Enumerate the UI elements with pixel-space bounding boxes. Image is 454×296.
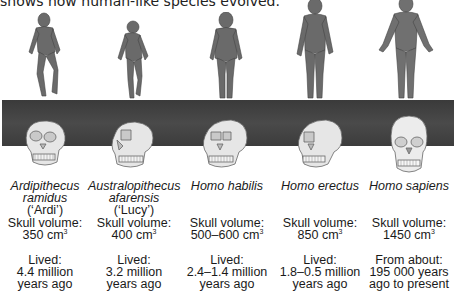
skull-volume-value: 350 cm3 bbox=[0, 229, 90, 241]
homo-erectus-figure-icon bbox=[293, 0, 337, 102]
skull-volume-value: 850 cm3 bbox=[272, 229, 368, 241]
lived-line2: years ago bbox=[180, 278, 274, 290]
ardipithecus-skull-icon bbox=[21, 118, 69, 168]
australopithecus-figure-icon bbox=[112, 20, 152, 102]
homo-sapiens-figure-icon bbox=[375, 0, 437, 102]
australopithecus-skull-icon bbox=[107, 118, 157, 170]
species-info: Homo habilis Skull volume: 500–600 cm3 L… bbox=[180, 180, 274, 291]
lived-line2: years ago bbox=[0, 278, 90, 290]
homo-habilis-figure-icon bbox=[204, 12, 248, 102]
species-nickname: (‘Lucy’) bbox=[88, 204, 180, 216]
species-column-homo-erectus: Homo erectus Skull volume: 850 cm3 Lived… bbox=[272, 0, 368, 296]
species-column-ardipithecus: Ardipithecus ramidus (‘Ardi’) Skull volu… bbox=[0, 0, 90, 296]
species-column-homo-habilis: Homo habilis Skull volume: 500–600 cm3 L… bbox=[180, 0, 274, 296]
lived-line2: ago to present bbox=[364, 278, 454, 290]
skull-volume-value: 500–600 cm3 bbox=[180, 229, 274, 241]
ardipithecus-figure-icon bbox=[24, 12, 70, 102]
skull-volume-value: 1450 cm3 bbox=[364, 229, 454, 241]
species-nickname: (‘Ardi’) bbox=[0, 204, 90, 216]
lived-line2: years ago bbox=[272, 278, 368, 290]
species-column-homo-sapiens: Homo sapiens Skull volume: 1450 cm3 From… bbox=[364, 0, 454, 296]
species-info: Australopithecus afarensis (‘Lucy’) Skul… bbox=[88, 180, 180, 291]
species-nickname bbox=[272, 204, 368, 216]
homo-erectus-skull-icon bbox=[294, 118, 346, 170]
species-nickname bbox=[180, 204, 274, 216]
homo-sapiens-skull-icon bbox=[387, 114, 431, 176]
species-nickname bbox=[364, 204, 454, 216]
species-column-australopithecus: Australopithecus afarensis (‘Lucy’) Skul… bbox=[88, 0, 180, 296]
species-info: Homo erectus Skull volume: 850 cm3 Lived… bbox=[272, 180, 368, 291]
species-info: Homo sapiens Skull volume: 1450 cm3 From… bbox=[364, 180, 454, 291]
skull-volume-value: 400 cm3 bbox=[88, 229, 180, 241]
homo-habilis-skull-icon bbox=[199, 118, 251, 170]
lived-line2: years ago bbox=[88, 278, 180, 290]
species-info: Ardipithecus ramidus (‘Ardi’) Skull volu… bbox=[0, 180, 90, 291]
